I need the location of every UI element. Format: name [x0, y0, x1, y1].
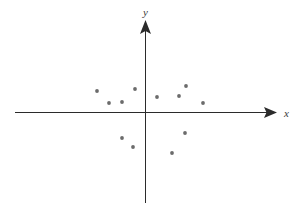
data-point [131, 145, 135, 149]
x-axis-label: x [283, 107, 289, 119]
data-point [120, 100, 124, 104]
data-points-layer [95, 84, 205, 155]
data-point [155, 95, 159, 99]
x-axis-group: x [15, 107, 289, 119]
data-point [133, 87, 137, 91]
scatter-plot-figure: x y [0, 0, 298, 208]
data-point [107, 101, 111, 105]
y-axis-label: y [142, 6, 148, 18]
data-point [183, 131, 187, 135]
data-point [170, 151, 174, 155]
data-point [95, 89, 99, 93]
data-point [177, 94, 181, 98]
data-point [184, 84, 188, 88]
data-point [201, 101, 205, 105]
data-point [120, 136, 124, 140]
coordinate-plane-svg: x y [0, 0, 298, 208]
y-axis-group: y [140, 6, 151, 203]
